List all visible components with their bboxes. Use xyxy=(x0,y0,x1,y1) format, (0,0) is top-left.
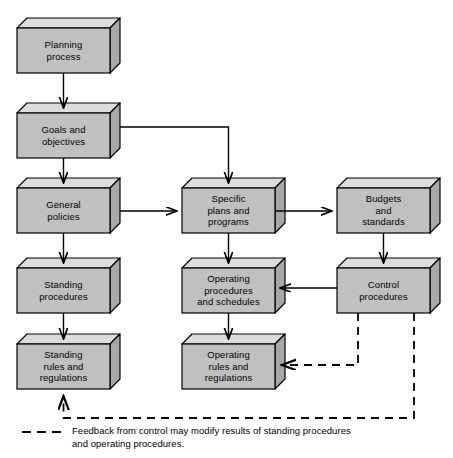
box-side-face xyxy=(110,334,120,389)
box-side-face xyxy=(275,178,285,233)
connector-goals-to-specific xyxy=(120,127,229,183)
box-side-face xyxy=(110,18,120,73)
box-top-face xyxy=(17,258,120,268)
box-top-face xyxy=(182,258,285,268)
box-front-face xyxy=(337,268,430,313)
connector-control-to-operating-rules xyxy=(282,313,358,365)
box-top-face xyxy=(182,178,285,188)
box-side-face xyxy=(110,178,120,233)
box-front-face xyxy=(182,268,275,313)
box-side-face xyxy=(275,334,285,389)
box-standing-procedures xyxy=(17,258,120,313)
box-control-procedures xyxy=(337,258,440,313)
box-front-face xyxy=(17,344,110,389)
box-side-face xyxy=(430,178,440,233)
box-front-face xyxy=(337,188,430,233)
box-top-face xyxy=(17,334,120,344)
box-standing-rules xyxy=(17,334,120,389)
box-side-face xyxy=(110,258,120,313)
box-top-face xyxy=(17,18,120,28)
box-front-face xyxy=(17,188,110,233)
box-budgets-standards xyxy=(337,178,440,233)
box-side-face xyxy=(430,258,440,313)
box-goals-objectives xyxy=(17,103,120,158)
box-top-face xyxy=(337,258,440,268)
box-side-face xyxy=(110,103,120,158)
box-side-face xyxy=(275,258,285,313)
box-top-face xyxy=(17,103,120,113)
box-front-face xyxy=(182,344,275,389)
box-top-face xyxy=(17,178,120,188)
diagram-canvas xyxy=(0,0,453,458)
box-general-policies xyxy=(17,178,120,233)
flow-diagram-figure: Planning processGoals and objectivesGene… xyxy=(0,0,453,458)
box-operating-rules xyxy=(182,334,285,389)
box-front-face xyxy=(17,113,110,158)
box-specific-plans xyxy=(182,178,285,233)
box-top-face xyxy=(182,334,285,344)
box-front-face xyxy=(17,28,110,73)
legend-text: Feedback from control may modify results… xyxy=(72,425,432,450)
box-top-face xyxy=(337,178,440,188)
box-planning-process xyxy=(17,18,120,73)
box-operating-procedures xyxy=(182,258,285,313)
box-front-face xyxy=(182,188,275,233)
box-front-face xyxy=(17,268,110,313)
